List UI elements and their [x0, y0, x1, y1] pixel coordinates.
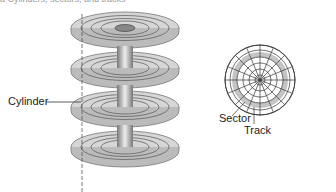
- platter-2: [71, 46, 179, 88]
- platter-3: [71, 85, 179, 127]
- disk-diagram: [0, 0, 336, 192]
- sector-label: Sector: [219, 112, 251, 124]
- platter-4: [71, 125, 179, 167]
- cylinder-label: Cylinder: [8, 95, 48, 107]
- track-label: Track: [244, 124, 271, 136]
- platter-1: [71, 12, 179, 48]
